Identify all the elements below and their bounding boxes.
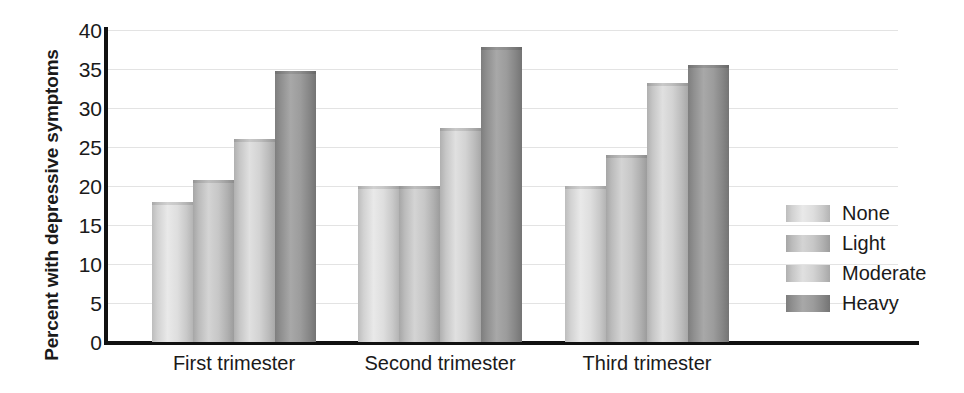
bar[interactable] xyxy=(647,83,688,342)
legend-swatch xyxy=(786,205,830,222)
bar[interactable] xyxy=(440,128,481,343)
legend-swatch xyxy=(786,295,830,312)
y-tick-label: 5 xyxy=(58,293,102,314)
y-tick-label: 20 xyxy=(58,176,102,197)
bar-cap xyxy=(688,65,729,68)
bar-cap xyxy=(606,155,647,158)
y-tick-label: 35 xyxy=(58,59,102,80)
x-axis-category-label: First trimester xyxy=(173,352,295,375)
y-tick-label: 15 xyxy=(58,215,102,236)
bar-cap xyxy=(481,47,522,50)
legend-label: None xyxy=(842,203,890,223)
bar-group xyxy=(358,30,522,342)
plot-area xyxy=(108,30,898,342)
legend-label: Light xyxy=(842,233,885,253)
legend-label: Heavy xyxy=(842,293,899,313)
bar-chart-figure: Percent with depressive symptoms 0510152… xyxy=(0,0,964,393)
bar[interactable] xyxy=(688,65,729,342)
y-tick-label: 40 xyxy=(58,20,102,41)
bar[interactable] xyxy=(358,186,399,342)
bar-cap xyxy=(275,71,316,74)
bar-cap xyxy=(440,128,481,131)
y-axis-tick-labels: 0510152025303540 xyxy=(52,0,102,393)
bar-cap xyxy=(234,139,275,142)
bar-group xyxy=(565,30,729,342)
x-axis-category-label: Second trimester xyxy=(364,352,515,375)
bar-series-container xyxy=(108,30,898,342)
y-tick-label: 0 xyxy=(58,332,102,353)
bar[interactable] xyxy=(234,139,275,342)
legend-item[interactable]: Light xyxy=(786,228,956,258)
bar-cap xyxy=(152,202,193,205)
legend-label: Moderate xyxy=(842,263,927,283)
bar-cap xyxy=(358,186,399,189)
bar[interactable] xyxy=(193,180,234,342)
bar[interactable] xyxy=(606,155,647,342)
bar[interactable] xyxy=(399,186,440,342)
legend-swatch xyxy=(786,235,830,252)
bar[interactable] xyxy=(275,71,316,342)
bar[interactable] xyxy=(565,186,606,342)
bar[interactable] xyxy=(152,202,193,342)
bar[interactable] xyxy=(481,47,522,342)
y-tick-label: 10 xyxy=(58,254,102,275)
bar-cap xyxy=(647,83,688,86)
y-tick-label: 30 xyxy=(58,98,102,119)
x-axis-category-label: Third trimester xyxy=(583,352,712,375)
bar-cap xyxy=(193,180,234,183)
legend-swatch xyxy=(786,265,830,282)
bar-cap xyxy=(565,186,606,189)
chart-legend: NoneLightModerateHeavy xyxy=(786,198,956,318)
bar-group xyxy=(152,30,316,342)
y-tick-label: 25 xyxy=(58,137,102,158)
legend-item[interactable]: None xyxy=(786,198,956,228)
bar-cap xyxy=(399,186,440,189)
legend-item[interactable]: Moderate xyxy=(786,258,956,288)
legend-item[interactable]: Heavy xyxy=(786,288,956,318)
